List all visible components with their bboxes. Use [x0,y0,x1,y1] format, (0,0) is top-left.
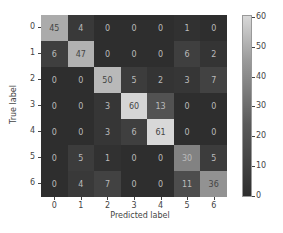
matrix-cell: 0 [41,67,68,93]
matrix-cell: 50 [94,67,121,93]
matrix-cell: 7 [94,171,121,197]
matrix-cell: 3 [174,67,201,93]
matrix-cell: 2 [200,41,227,67]
y-axis-label: True label [9,80,18,130]
y-tick-label: 5 [25,152,35,161]
matrix-cell: 0 [147,41,174,67]
matrix-cell: 0 [68,67,95,93]
x-tick-label: 0 [49,201,59,210]
matrix-cell: 30 [174,145,201,171]
y-tick-label: 6 [25,178,35,187]
matrix-cell: 5 [68,145,95,171]
x-tick-label: 2 [102,201,112,210]
matrix-cell: 2 [147,67,174,93]
matrix-cell: 5 [200,145,227,171]
matrix-cell: 1 [174,15,201,41]
colorbar-tick-label: 50 [256,42,266,51]
matrix-cell: 0 [147,15,174,41]
matrix-cell: 6 [121,119,148,145]
matrix-cell: 0 [121,41,148,67]
matrix-cell: 3 [94,93,121,119]
matrix-cell: 0 [200,119,227,145]
matrix-cell: 0 [41,93,68,119]
matrix-cell: 0 [174,93,201,119]
x-axis-label: Predicted label [100,211,180,220]
matrix-cell: 1 [94,145,121,171]
matrix-cell: 36 [200,171,227,197]
colorbar-tick-label: 40 [256,72,266,81]
x-tick-label: 3 [129,201,139,210]
y-tick-label: 0 [25,22,35,31]
matrix-cell: 4 [68,171,95,197]
matrix-cell: 11 [174,171,201,197]
colorbar-tick-label: 30 [256,101,266,110]
matrix-cell: 0 [41,171,68,197]
matrix-cell: 0 [121,171,148,197]
y-tick-label: 4 [25,126,35,135]
matrix-cell: 45 [41,15,68,41]
matrix-cell: 0 [200,93,227,119]
x-tick-label: 6 [209,201,219,210]
matrix-cell: 0 [94,41,121,67]
colorbar-tick-label: 10 [256,161,266,170]
matrix-cell: 5 [121,67,148,93]
matrix-cell: 0 [147,145,174,171]
matrix-cell: 61 [147,119,174,145]
y-tick-label: 2 [25,74,35,83]
x-tick-label: 1 [76,201,86,210]
matrix-cell: 0 [68,93,95,119]
x-tick-label: 4 [156,201,166,210]
matrix-cell: 0 [68,119,95,145]
matrix-cell: 3 [94,119,121,145]
matrix-cell: 60 [121,93,148,119]
matrix-cell: 0 [174,119,201,145]
matrix-cell: 6 [174,41,201,67]
matrix-cell: 0 [41,119,68,145]
y-tick-label: 3 [25,100,35,109]
matrix-cell: 0 [121,145,148,171]
matrix-cell: 0 [200,15,227,41]
matrix-cell: 0 [121,15,148,41]
colorbar-tick-label: 0 [256,191,261,200]
matrix-cell: 6 [41,41,68,67]
matrix-cell: 7 [200,67,227,93]
matrix-cell: 0 [41,145,68,171]
confusion-matrix-grid: 4540001064700062005052370036013000036610… [41,15,227,197]
matrix-cell: 0 [94,15,121,41]
colorbar [242,15,252,197]
matrix-cell: 47 [68,41,95,67]
y-tick-label: 1 [25,48,35,57]
colorbar-tick-label: 60 [256,12,266,21]
matrix-cell: 0 [147,171,174,197]
x-tick-label: 5 [182,201,192,210]
matrix-cell: 13 [147,93,174,119]
matrix-cell: 4 [68,15,95,41]
colorbar-tick-label: 20 [256,131,266,140]
